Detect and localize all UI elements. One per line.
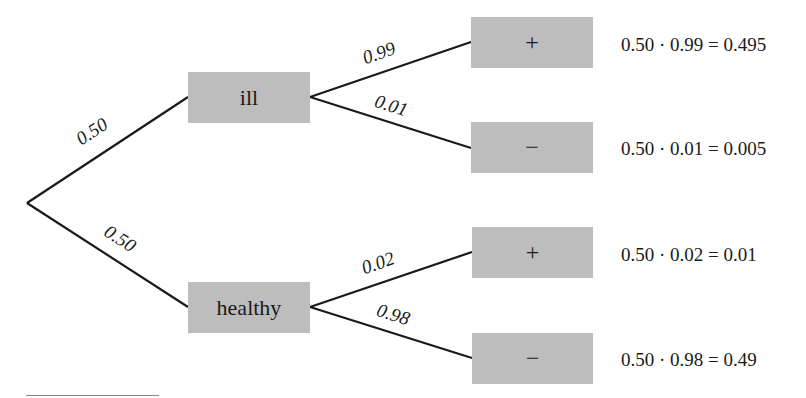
result-healthy-negative: 0.50 · 0.98 = 0.49	[621, 349, 757, 371]
node-ill-label: ill	[240, 85, 258, 111]
positive-sign: +	[526, 239, 540, 266]
node-healthy: healthy	[188, 282, 310, 333]
node-healthy-negative: −	[472, 333, 593, 384]
edge-root-ill	[27, 97, 188, 203]
node-ill-negative: −	[471, 122, 593, 173]
edge-root-healthy	[27, 203, 188, 307]
negative-sign: −	[526, 345, 540, 372]
footer-rule	[26, 395, 159, 396]
node-ill-positive: +	[471, 17, 593, 68]
result-ill-negative: 0.50 · 0.01 = 0.005	[621, 138, 766, 160]
node-ill: ill	[188, 72, 310, 123]
result-healthy-positive: 0.50 · 0.02 = 0.01	[621, 244, 757, 266]
tree-edges	[0, 0, 806, 398]
result-ill-positive: 0.50 · 0.99 = 0.495	[621, 34, 766, 56]
negative-sign: −	[525, 134, 539, 161]
positive-sign: +	[525, 29, 539, 56]
node-healthy-label: healthy	[217, 295, 282, 321]
node-healthy-positive: +	[472, 227, 593, 278]
